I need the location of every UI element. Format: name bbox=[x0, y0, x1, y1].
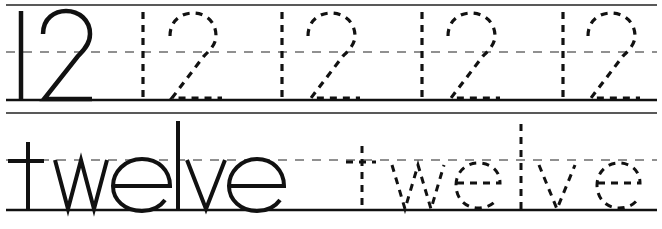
handwriting-worksheet bbox=[0, 0, 662, 229]
word-row bbox=[6, 113, 657, 211]
number-row bbox=[6, 5, 657, 100]
model-number-12 bbox=[21, 11, 92, 100]
trace-number-12 bbox=[143, 12, 640, 100]
model-word-twelve bbox=[8, 121, 284, 211]
trace-word-twelve bbox=[346, 124, 640, 210]
